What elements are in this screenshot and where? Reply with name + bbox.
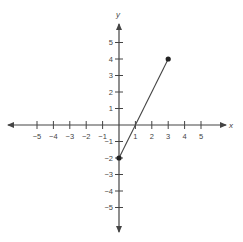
axes xyxy=(8,24,226,232)
y-tick-label: 3 xyxy=(109,71,113,80)
y-tick-label: −4 xyxy=(104,187,113,196)
endpoint-dot xyxy=(166,56,171,61)
x-tick-label: 3 xyxy=(166,132,170,141)
y-tick-label: −3 xyxy=(104,170,113,179)
line-segment xyxy=(119,59,168,158)
x-tick-label: −5 xyxy=(33,132,42,141)
y-tick-label: 1 xyxy=(109,104,113,113)
data-series xyxy=(116,56,170,160)
x-tick-label: −2 xyxy=(82,132,91,141)
y-tick-label: 2 xyxy=(109,88,113,97)
x-tick-label: 2 xyxy=(150,132,154,141)
endpoint-dot xyxy=(116,155,121,160)
x-tick-label: 4 xyxy=(183,132,187,141)
y-tick-label: −2 xyxy=(104,154,113,163)
y-tick-label: 5 xyxy=(109,38,113,47)
y-tick-label: 4 xyxy=(109,55,113,64)
x-axis-label: x xyxy=(228,121,234,130)
y-tick-label: −1 xyxy=(104,137,113,146)
x-tick-label: 5 xyxy=(199,132,203,141)
coordinate-plane: −5−4−3−2−112345−5−4−3−2−112345 x y xyxy=(0,0,243,242)
x-tick-label: −3 xyxy=(66,132,75,141)
x-tick-label: −4 xyxy=(49,132,58,141)
y-axis-label: y xyxy=(115,10,121,19)
y-tick-label: −5 xyxy=(104,203,113,212)
x-tick-label: 1 xyxy=(133,132,137,141)
